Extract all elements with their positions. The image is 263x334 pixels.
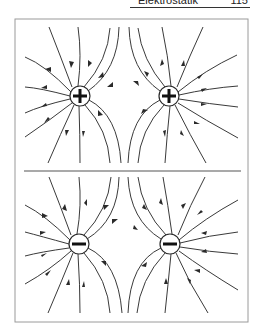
negative-charge-left: [69, 234, 89, 254]
positive-panel: [25, 27, 238, 163]
positive-charge-right: [159, 86, 179, 106]
negative-panel: [25, 177, 238, 313]
negative-charge-right: [160, 234, 180, 254]
positive-charge-left: [70, 86, 90, 106]
field-lines-diagram: [0, 0, 263, 334]
